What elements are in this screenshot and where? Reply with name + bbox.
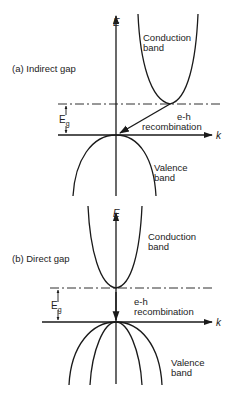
panel-b-title: (b) Direct gap xyxy=(12,254,70,264)
recombination-label-b: e-h recombination xyxy=(134,297,194,317)
panel-a-indirect-gap xyxy=(58,14,222,196)
valence-band-curve-a xyxy=(73,135,156,196)
gap-label-a: Eg xyxy=(59,114,70,127)
conduction-band-label-a: Conduction band xyxy=(143,33,191,53)
valence-band-label-a: Valence band xyxy=(154,163,188,183)
e-axis-label-b: E xyxy=(113,208,120,219)
recombination-label-a: e-h recombination xyxy=(166,112,202,132)
band-diagram xyxy=(0,0,233,397)
panel-a-title: (a) Indirect gap xyxy=(12,64,76,74)
e-axis-label-a: E xyxy=(113,17,120,28)
k-axis-label-a: k xyxy=(216,130,221,141)
conduction-band-curve-a xyxy=(138,14,198,104)
k-axis-label-b: k xyxy=(216,317,221,328)
valence-band-label-b: Valence band xyxy=(171,358,205,378)
conduction-band-label-b: Conduction band xyxy=(148,232,196,252)
gap-label-b: Eg xyxy=(51,300,62,313)
